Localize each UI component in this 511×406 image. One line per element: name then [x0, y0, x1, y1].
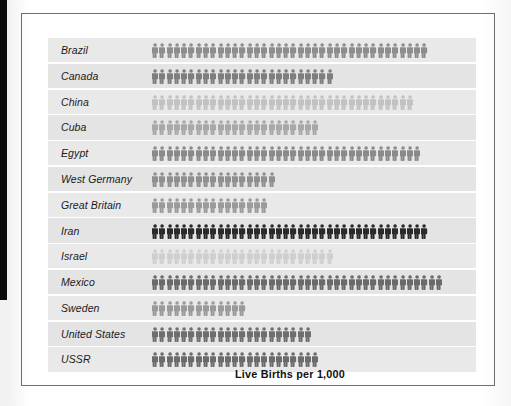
row-bar — [152, 274, 476, 290]
row-bar — [152, 171, 476, 187]
row-label-china: China — [48, 96, 152, 108]
row-label-mexico: Mexico — [48, 276, 152, 288]
pictograph-figure: BrazilCanadaChinaCubaEgyptWest GermanyGr… — [0, 0, 511, 406]
row-label-west-germany: West Germany — [48, 173, 152, 185]
person-icon-group — [152, 300, 247, 316]
row-bar — [152, 300, 476, 316]
pictograph-row: Egypt — [48, 141, 476, 165]
chart-title-text: Live Births per 1,000 — [179, 368, 345, 380]
row-bar — [152, 145, 476, 161]
row-label-ussr: USSR — [48, 353, 152, 365]
row-bar — [152, 119, 476, 135]
row-bar — [152, 197, 476, 213]
pictograph-row: United States — [48, 322, 476, 346]
row-bar — [152, 223, 476, 239]
row-bar — [152, 42, 476, 58]
pictograph-row: Mexico — [48, 270, 476, 294]
person-icon-group — [152, 197, 269, 213]
row-label-iran: Iran — [48, 225, 152, 237]
person-icon-group — [152, 248, 334, 264]
row-bar — [152, 248, 476, 264]
person-icon-group — [152, 94, 414, 110]
row-label-united-states: United States — [48, 328, 152, 340]
row-bar — [152, 351, 476, 367]
pictograph-row: Great Britain — [48, 193, 476, 217]
row-bar — [152, 326, 476, 342]
pictograph-row: Canada — [48, 64, 476, 88]
pictograph-row: Iran — [48, 218, 476, 242]
row-bar — [152, 94, 476, 110]
person-icon-group — [152, 42, 429, 58]
person-icon-group — [152, 119, 319, 135]
scan-edge-artifact — [0, 0, 7, 300]
chart-title: Live Births per 1,000 — [48, 368, 476, 380]
row-label-canada: Canada — [48, 70, 152, 82]
pictograph-rows: BrazilCanadaChinaCubaEgyptWest GermanyGr… — [48, 38, 476, 373]
pictograph-row: West Germany — [48, 167, 476, 191]
person-icon-group — [152, 223, 429, 239]
person-icon-group — [152, 274, 443, 290]
person-icon-group — [152, 68, 334, 84]
person-icon-group — [152, 351, 319, 367]
chart-panel: BrazilCanadaChinaCubaEgyptWest GermanyGr… — [21, 13, 495, 386]
row-label-cuba: Cuba — [48, 121, 152, 133]
pictograph-row: Cuba — [48, 115, 476, 139]
pictograph-row: Sweden — [48, 296, 476, 320]
row-label-great-britain: Great Britain — [48, 199, 152, 211]
row-bar — [152, 68, 476, 84]
person-icon-group — [152, 171, 276, 187]
row-label-brazil: Brazil — [48, 44, 152, 56]
pictograph-row: Brazil — [48, 38, 476, 62]
row-label-israel: Israel — [48, 250, 152, 262]
person-icon-group — [152, 145, 421, 161]
person-icon-group — [152, 326, 312, 342]
pictograph-row: Israel — [48, 244, 476, 268]
pictograph-row: China — [48, 90, 476, 114]
row-label-egypt: Egypt — [48, 147, 152, 159]
row-label-sweden: Sweden — [48, 302, 152, 314]
